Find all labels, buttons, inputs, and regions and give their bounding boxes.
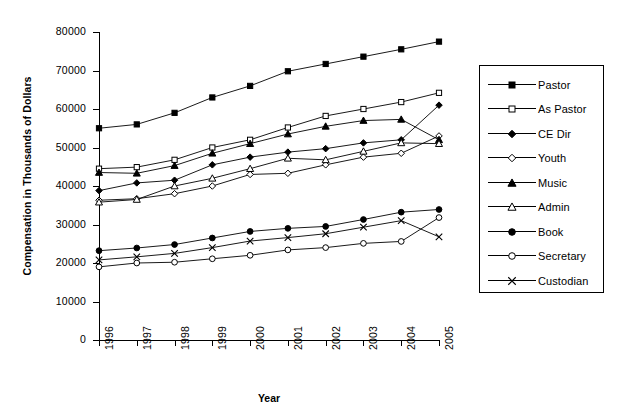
legend-marker-filled-triangle-icon bbox=[486, 176, 538, 190]
y-tick bbox=[93, 148, 100, 149]
x-tick bbox=[250, 340, 251, 346]
series-secretary bbox=[96, 215, 442, 270]
y-tick bbox=[93, 186, 100, 187]
legend-label: Youth bbox=[538, 152, 566, 164]
legend-item-ce-dir[interactable]: CE Dir bbox=[480, 121, 605, 146]
x-tick-label: 2000 bbox=[254, 326, 266, 350]
y-tick-label: 40000 bbox=[24, 180, 86, 190]
x-tick-label: 1999 bbox=[216, 326, 228, 350]
legend-marker-open-triangle-icon bbox=[486, 200, 538, 214]
x-tick bbox=[363, 340, 364, 346]
legend-label: Admin bbox=[538, 201, 570, 213]
x-tick-label: 2002 bbox=[330, 326, 342, 350]
line-chart: Compensation in Thousands of Dollars 010… bbox=[0, 0, 620, 416]
legend-item-custodian[interactable]: Custodian bbox=[480, 268, 605, 293]
legend-item-as-pastor[interactable]: As Pastor bbox=[480, 97, 605, 122]
legend-marker-open-circle-icon bbox=[486, 249, 538, 263]
legend-marker-filled-circle-icon bbox=[486, 225, 538, 239]
x-tick-label: 1996 bbox=[103, 326, 115, 350]
series-music bbox=[95, 116, 442, 176]
legend-item-youth[interactable]: Youth bbox=[480, 146, 605, 171]
legend-label: Book bbox=[538, 226, 563, 238]
legend-item-music[interactable]: Music bbox=[480, 170, 605, 195]
legend-item-secretary[interactable]: Secretary bbox=[480, 244, 605, 269]
series-pastor bbox=[96, 39, 441, 131]
y-tick bbox=[93, 71, 100, 72]
legend-marker-open-square-icon bbox=[486, 102, 538, 116]
legend-marker-filled-diamond-icon bbox=[486, 127, 538, 141]
legend-item-book[interactable]: Book bbox=[480, 219, 605, 244]
series-ce-dir bbox=[96, 102, 443, 194]
y-tick-label: 60000 bbox=[24, 103, 86, 113]
x-tick bbox=[326, 340, 327, 346]
x-tick-label: 2003 bbox=[367, 326, 379, 350]
series-as-pastor bbox=[96, 90, 441, 171]
x-tick-label: 2001 bbox=[292, 326, 304, 350]
y-tick bbox=[93, 263, 100, 264]
x-tick-label: 2005 bbox=[443, 326, 455, 350]
series-book bbox=[96, 207, 442, 254]
x-tick-label: 1998 bbox=[179, 326, 191, 350]
legend-label: Pastor bbox=[538, 79, 570, 91]
legend-label: CE Dir bbox=[538, 128, 571, 140]
x-tick bbox=[288, 340, 289, 346]
x-tick bbox=[137, 340, 138, 346]
legend-label: Secretary bbox=[538, 250, 586, 262]
series-admin bbox=[95, 139, 442, 205]
y-tick-label: 0 bbox=[24, 334, 86, 344]
y-tick-label: 80000 bbox=[24, 26, 86, 36]
legend-label: Music bbox=[538, 177, 567, 189]
x-axis-title: Year bbox=[99, 392, 439, 404]
x-tick-label: 2004 bbox=[405, 326, 417, 350]
y-tick-label: 30000 bbox=[24, 219, 86, 229]
legend-marker-filled-square-icon bbox=[486, 78, 538, 92]
y-tick-label: 50000 bbox=[24, 142, 86, 152]
x-tick bbox=[99, 340, 100, 346]
x-tick bbox=[439, 340, 440, 346]
x-tick-label: 1997 bbox=[141, 326, 153, 350]
y-tick-label: 70000 bbox=[24, 65, 86, 75]
x-tick bbox=[212, 340, 213, 346]
y-tick-label: 20000 bbox=[24, 257, 86, 267]
y-tick bbox=[93, 109, 100, 110]
series-youth bbox=[96, 133, 443, 204]
y-tick bbox=[93, 32, 100, 33]
legend-marker-cross-icon bbox=[486, 274, 538, 288]
legend: PastorAs PastorCE DirYouthMusicAdminBook… bbox=[479, 65, 604, 293]
legend-label: Custodian bbox=[538, 275, 588, 287]
legend-item-admin[interactable]: Admin bbox=[480, 195, 605, 220]
x-tick bbox=[175, 340, 176, 346]
y-tick bbox=[93, 302, 100, 303]
x-tick bbox=[401, 340, 402, 346]
legend-marker-open-diamond-icon bbox=[486, 151, 538, 165]
y-tick-label: 10000 bbox=[24, 296, 86, 306]
legend-label: As Pastor bbox=[538, 103, 587, 115]
series-custodian bbox=[96, 217, 443, 263]
legend-item-pastor[interactable]: Pastor bbox=[480, 72, 605, 97]
y-tick bbox=[93, 225, 100, 226]
